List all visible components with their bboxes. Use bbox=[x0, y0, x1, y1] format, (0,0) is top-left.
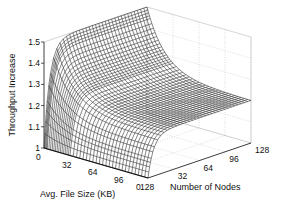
z-tick-label: 1.1 bbox=[28, 122, 40, 132]
z-axis-label: Throughput Increase bbox=[7, 53, 17, 136]
y-tick-label: 96 bbox=[229, 154, 239, 164]
z-tick-label: 1.4 bbox=[28, 58, 40, 68]
x-axis-label: Avg. File Size (KB) bbox=[40, 189, 115, 199]
y-tick-label: 64 bbox=[204, 163, 214, 173]
z-tick-label: 1.2 bbox=[28, 101, 40, 111]
z-tick-label: 1.3 bbox=[28, 79, 40, 89]
y-tick-label: 0 bbox=[136, 182, 141, 192]
x-tick-label: 128 bbox=[140, 182, 154, 192]
x-tick-label: 0 bbox=[36, 152, 41, 162]
y-axis-label: Number of Nodes bbox=[170, 182, 241, 192]
y-tick-label: 32 bbox=[178, 171, 188, 181]
x-tick-label: 64 bbox=[88, 167, 98, 177]
surface-mesh bbox=[44, 7, 251, 178]
x-tick-label: 96 bbox=[114, 175, 124, 185]
z-tick-label: 1.5 bbox=[28, 37, 40, 47]
y-tick-label: 128 bbox=[255, 145, 269, 155]
surface-chart: 11.11.21.31.41.503264961280326496128 Thr… bbox=[0, 0, 284, 210]
x-tick-label: 32 bbox=[62, 160, 72, 170]
